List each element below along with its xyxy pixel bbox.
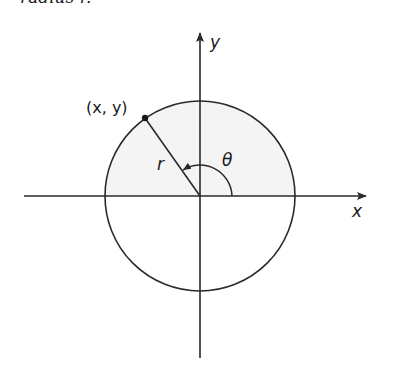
x-axis-label: x <box>351 201 363 221</box>
y-axis-label: y <box>209 32 221 52</box>
radius-label: r <box>157 154 165 174</box>
point-label: (x, y) <box>86 98 128 117</box>
point-marker <box>142 115 148 121</box>
angle-label: θ <box>222 150 233 170</box>
polar-coordinates-figure: y x (x, y) r θ <box>0 0 396 371</box>
